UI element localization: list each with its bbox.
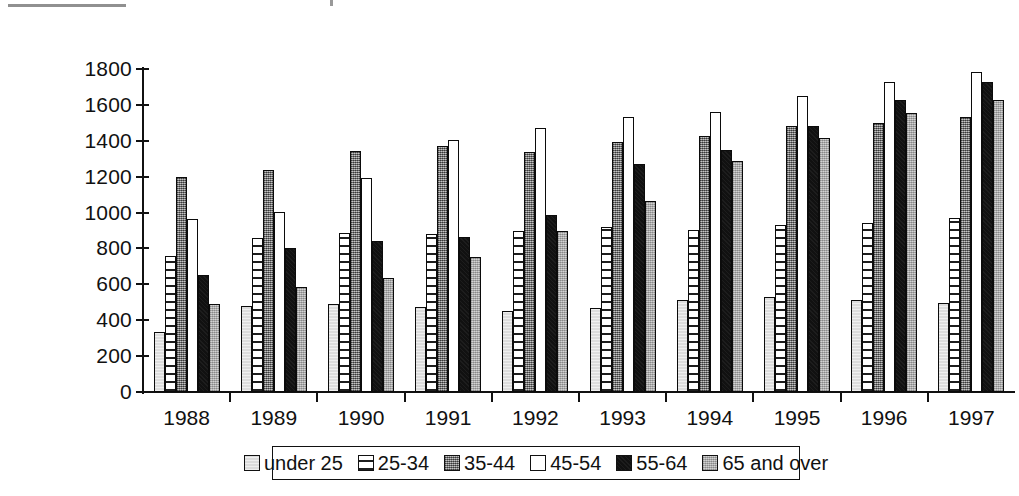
bar: [710, 112, 721, 392]
bar: [557, 231, 568, 392]
scan-artifact-rule: [8, 4, 126, 7]
legend-item: 55-64: [616, 453, 687, 473]
legend-item-label: 45-54: [550, 453, 601, 473]
chart-legend: under 2525-3435-4445-5455-6465 and over: [272, 446, 800, 480]
x-axis-tick: [316, 393, 318, 402]
scan-artifact-mark: [330, 0, 333, 6]
bar: [339, 233, 350, 392]
bar: [645, 201, 656, 392]
bar: [535, 128, 546, 392]
bar: [938, 303, 949, 392]
bar: [361, 178, 372, 392]
bar: [209, 304, 220, 392]
bar: [808, 126, 819, 392]
x-axis-tick-label: 1997: [928, 406, 1015, 430]
bar: [819, 138, 830, 392]
x-axis-tick-label: 1995: [753, 406, 840, 430]
bar: [982, 82, 993, 392]
bar: [187, 219, 198, 392]
x-axis-tick: [840, 393, 842, 402]
x-axis-tick: [229, 393, 231, 402]
bar: [165, 256, 176, 392]
bar: [906, 113, 917, 392]
bar: [612, 142, 623, 392]
x-axis-tick: [927, 393, 929, 402]
x-axis-tick: [752, 393, 754, 402]
bar: [176, 177, 187, 392]
y-axis-tick-label: 600: [48, 273, 132, 294]
bar: [285, 248, 296, 392]
x-axis-tick: [491, 393, 493, 402]
bar: [274, 212, 285, 392]
bar: [459, 237, 470, 392]
bar: [241, 306, 252, 392]
legend-item: under 25: [244, 453, 343, 473]
bar: [470, 257, 481, 392]
bar: [895, 100, 906, 392]
legend-item: 65 and over: [702, 453, 828, 473]
bar: [448, 140, 459, 392]
bar: [634, 164, 645, 392]
legend-item-label: 25-34: [378, 453, 429, 473]
legend-item-label: 35-44: [464, 453, 515, 473]
legend-item-label: under 25: [264, 453, 343, 473]
x-axis-tick-label: 1994: [666, 406, 753, 430]
legend-item: 25-34: [358, 453, 429, 473]
bar: [764, 297, 775, 392]
bar: [993, 100, 1004, 392]
legend-swatch-icon: [358, 455, 374, 471]
bar: [437, 146, 448, 392]
x-axis-tick-label: 1989: [230, 406, 317, 430]
bar: [949, 218, 960, 392]
bar: [797, 96, 808, 392]
bar: [862, 223, 873, 392]
bar: [154, 332, 165, 392]
y-axis-tick-label: 1400: [48, 130, 132, 151]
bar: [873, 123, 884, 392]
legend-item: 45-54: [530, 453, 601, 473]
bar: [960, 117, 971, 392]
bar: [252, 238, 263, 392]
x-axis-tick-label: 1990: [317, 406, 404, 430]
bar: [350, 151, 361, 392]
bar: [884, 82, 895, 392]
x-axis-tick: [578, 393, 580, 402]
y-axis-tick-label: 1200: [48, 166, 132, 187]
y-axis-tick-labels: 180016001400120010008006004002000: [40, 16, 132, 416]
x-axis-tick-label: 1992: [492, 406, 579, 430]
legend-item: 35-44: [444, 453, 515, 473]
bar: [372, 241, 383, 392]
x-axis-tick-label: 1988: [143, 406, 230, 430]
legend-item-label: 55-64: [636, 453, 687, 473]
bar: [328, 304, 339, 392]
bar: [198, 275, 209, 392]
bar: [590, 308, 601, 392]
y-axis-tick-label: 0: [48, 381, 132, 402]
bar: [688, 230, 699, 392]
bar: [415, 307, 426, 392]
bar: [601, 227, 612, 392]
x-axis-tick-label: 1991: [405, 406, 492, 430]
y-axis-tick-label: 400: [48, 309, 132, 330]
bar: [426, 234, 437, 392]
legend-swatch-icon: [244, 455, 260, 471]
x-axis-tick-label: 1993: [579, 406, 666, 430]
bar: [296, 287, 307, 392]
y-axis-tick-label: 800: [48, 237, 132, 258]
y-axis-tick-label: 1600: [48, 94, 132, 115]
legend-swatch-icon: [444, 455, 460, 471]
bar: [513, 231, 524, 392]
bar: [732, 161, 743, 392]
legend-swatch-icon: [702, 455, 718, 471]
bar: [721, 150, 732, 392]
bar: [677, 300, 688, 392]
bar: [786, 126, 797, 392]
legend-swatch-icon: [530, 455, 546, 471]
bar: [699, 136, 710, 392]
legend-swatch-icon: [616, 455, 632, 471]
bar: [524, 152, 535, 392]
y-axis-tick-label: 200: [48, 345, 132, 366]
plot-area: [143, 69, 1015, 392]
bar: [263, 170, 274, 393]
y-axis-tick-label: 1800: [48, 58, 132, 79]
